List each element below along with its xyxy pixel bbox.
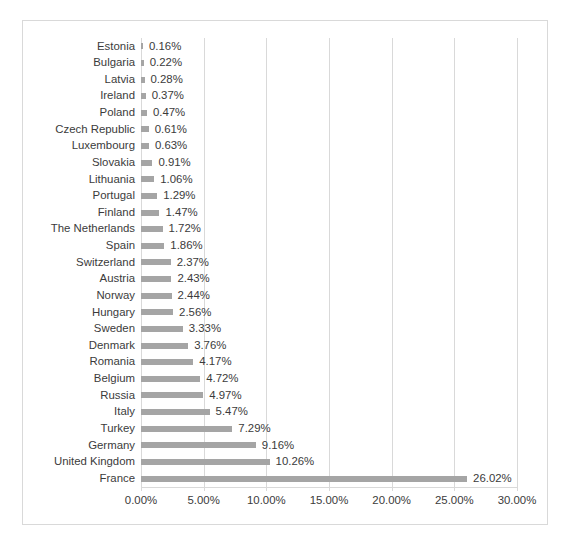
category-label: Poland — [23, 107, 135, 118]
x-tick — [329, 487, 330, 491]
bar[interactable] — [141, 343, 188, 349]
bar-value-label: 1.47% — [165, 207, 197, 218]
bar-value-label: 7.29% — [238, 423, 270, 434]
bar-row: Portugal1.29% — [23, 188, 547, 205]
bar-container: 1.06% — [141, 171, 517, 188]
bar-value-label: 0.47% — [153, 107, 185, 118]
bar-container: 0.91% — [141, 154, 517, 171]
bar[interactable] — [141, 210, 159, 216]
bar-value-label: 2.37% — [177, 257, 209, 268]
bar-container: 7.29% — [141, 420, 517, 437]
category-label: Turkey — [23, 423, 135, 434]
bar[interactable] — [141, 160, 152, 166]
bar-rows: Estonia0.16%Bulgaria0.22%Latvia0.28%Irel… — [23, 38, 547, 487]
bar[interactable] — [141, 276, 171, 282]
bar[interactable] — [141, 442, 256, 448]
bar-container: 0.22% — [141, 55, 517, 72]
bar[interactable] — [141, 43, 143, 49]
bar-container: 2.37% — [141, 254, 517, 271]
bar-row: Slovakia0.91% — [23, 154, 547, 171]
bar-container: 1.72% — [141, 221, 517, 238]
bar[interactable] — [141, 293, 172, 299]
category-label: Slovakia — [23, 157, 135, 168]
bar-row: Norway2.44% — [23, 287, 547, 304]
bar[interactable] — [141, 110, 147, 116]
bar[interactable] — [141, 409, 210, 415]
bar-row: Bulgaria0.22% — [23, 55, 547, 72]
bar[interactable] — [141, 243, 164, 249]
bar-value-label: 1.06% — [160, 174, 192, 185]
x-tick-label: 20.00% — [372, 495, 411, 506]
bar-row: France26.02% — [23, 470, 547, 487]
bar-container: 2.43% — [141, 271, 517, 288]
bar[interactable] — [141, 176, 154, 182]
bar-value-label: 3.33% — [189, 323, 221, 334]
category-label: Russia — [23, 390, 135, 401]
bar[interactable] — [141, 392, 203, 398]
bar-row: Germany9.16% — [23, 437, 547, 454]
x-tick — [392, 487, 393, 491]
category-label: Bulgaria — [23, 57, 135, 68]
bar-row: Belgium4.72% — [23, 371, 547, 388]
bar[interactable] — [141, 60, 144, 66]
bar[interactable] — [141, 143, 149, 149]
bar[interactable] — [141, 326, 183, 332]
bar[interactable] — [141, 426, 232, 432]
bar-container: 0.61% — [141, 121, 517, 138]
bar-value-label: 3.76% — [194, 340, 226, 351]
bar-row: Estonia0.16% — [23, 38, 547, 55]
x-tick-label: 5.00% — [188, 495, 220, 506]
bar-row: Luxembourg0.63% — [23, 138, 547, 155]
bar-row: Italy5.47% — [23, 404, 547, 421]
x-tick — [141, 487, 142, 491]
bar[interactable] — [141, 376, 200, 382]
bar-container: 0.37% — [141, 88, 517, 105]
bar[interactable] — [141, 77, 145, 83]
bar-row: Lithuania1.06% — [23, 171, 547, 188]
bar-value-label: 2.43% — [177, 273, 209, 284]
bar[interactable] — [141, 193, 157, 199]
bar-row: The Netherlands1.72% — [23, 221, 547, 238]
bar[interactable] — [141, 309, 173, 315]
category-label: United Kingdom — [23, 456, 135, 467]
chart-frame: Estonia0.16%Bulgaria0.22%Latvia0.28%Irel… — [22, 20, 548, 525]
bar[interactable] — [141, 259, 171, 265]
x-tick-label: 10.00% — [247, 495, 286, 506]
bar-value-label: 0.91% — [158, 157, 190, 168]
bar-row: Turkey7.29% — [23, 420, 547, 437]
bar[interactable] — [141, 359, 193, 365]
bar-container: 0.47% — [141, 105, 517, 122]
bar-container: 0.63% — [141, 138, 517, 155]
bar[interactable] — [141, 476, 467, 482]
bar-container: 0.16% — [141, 38, 517, 55]
bar-container: 4.97% — [141, 387, 517, 404]
bar[interactable] — [141, 459, 270, 465]
bar-row: Ireland0.37% — [23, 88, 547, 105]
category-label: Norway — [23, 290, 135, 301]
bar-row: Finland1.47% — [23, 204, 547, 221]
bar-row: Denmark3.76% — [23, 337, 547, 354]
bar-value-label: 0.28% — [151, 74, 183, 85]
bar-row: Romania4.17% — [23, 354, 547, 371]
category-label: Italy — [23, 406, 135, 417]
bar-value-label: 0.22% — [150, 57, 182, 68]
bar-value-label: 9.16% — [262, 440, 294, 451]
bar-row: Czech Republic0.61% — [23, 121, 547, 138]
category-label: Romania — [23, 356, 135, 367]
category-label: Belgium — [23, 373, 135, 384]
bar-value-label: 0.61% — [155, 124, 187, 135]
category-label: Sweden — [23, 323, 135, 334]
bar[interactable] — [141, 93, 146, 99]
bar-value-label: 0.63% — [155, 140, 187, 151]
category-label: Luxembourg — [23, 140, 135, 151]
bar-row: Switzerland2.37% — [23, 254, 547, 271]
category-label: Ireland — [23, 90, 135, 101]
bar-value-label: 10.26% — [276, 456, 315, 467]
bar-value-label: 4.97% — [209, 390, 241, 401]
bar[interactable] — [141, 126, 149, 132]
bar[interactable] — [141, 226, 163, 232]
bar-value-label: 4.72% — [206, 373, 238, 384]
bar-container: 4.72% — [141, 371, 517, 388]
x-tick — [454, 487, 455, 491]
x-tick — [517, 487, 518, 491]
